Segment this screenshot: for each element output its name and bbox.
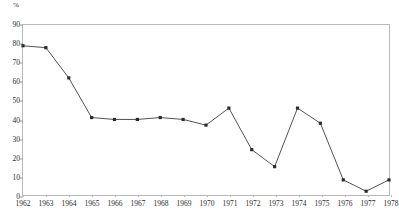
- x-axis-tick-mark: [253, 195, 254, 197]
- x-axis-tick-mark: [184, 195, 185, 197]
- y-axis-tick-label: 90: [13, 21, 21, 29]
- x-axis-tick-label: 1978: [384, 199, 399, 208]
- data-point-marker: [387, 178, 390, 181]
- x-axis-tick-label: 1966: [108, 199, 123, 208]
- y-axis-tick-label: 60: [13, 78, 21, 86]
- x-axis-tick-label: 1969: [177, 199, 192, 208]
- x-axis-tick-mark: [230, 195, 231, 197]
- y-axis-tick-label: 70: [13, 59, 21, 67]
- x-axis-tick-mark: [138, 195, 139, 197]
- data-point-marker: [250, 148, 253, 151]
- data-point-marker: [136, 118, 139, 121]
- y-axis-tick-label: 50: [13, 97, 21, 105]
- x-axis-tick-label: 1973: [269, 199, 284, 208]
- x-axis-tick-label: 1974: [292, 199, 307, 208]
- data-point-marker: [227, 107, 230, 110]
- x-axis-tick-mark: [23, 195, 24, 197]
- data-point-marker: [21, 44, 24, 47]
- data-point-marker: [365, 190, 368, 193]
- x-axis-tick-label: 1971: [223, 199, 238, 208]
- data-point-marker: [44, 46, 47, 49]
- series-line: [23, 46, 389, 191]
- x-axis-tick-mark: [391, 195, 392, 197]
- x-axis-tick-label: 1977: [361, 199, 376, 208]
- data-point-marker: [273, 165, 276, 168]
- data-point-marker: [319, 122, 322, 125]
- y-axis-tick-label: 80: [13, 40, 21, 48]
- x-axis-tick-mark: [368, 195, 369, 197]
- x-axis-tick-mark: [299, 195, 300, 197]
- x-axis-tick-mark: [115, 195, 116, 197]
- data-point-marker: [67, 76, 70, 79]
- data-point-marker: [90, 116, 93, 119]
- y-axis-unit-label: %: [13, 1, 19, 9]
- x-axis-tick-label: 1963: [39, 199, 54, 208]
- y-axis-tick-label: 30: [13, 136, 21, 144]
- x-axis-tick-mark: [345, 195, 346, 197]
- x-axis-tick-mark: [92, 195, 93, 197]
- x-axis-tick-label: 1967: [131, 199, 146, 208]
- x-axis-tick-label: 1964: [62, 199, 77, 208]
- y-axis-tick-label: 40: [13, 117, 21, 125]
- data-point-marker: [182, 118, 185, 121]
- plot-area: 0102030405060708090 19621963196419651966…: [22, 24, 390, 196]
- x-axis-tick-label: 1972: [246, 199, 261, 208]
- x-axis-tick-mark: [276, 195, 277, 197]
- data-point-marker: [342, 178, 345, 181]
- data-point-marker: [113, 118, 116, 121]
- x-axis-tick-mark: [207, 195, 208, 197]
- x-axis-tick-label: 1975: [315, 199, 330, 208]
- data-point-marker: [159, 116, 162, 119]
- x-axis-tick-label: 1968: [154, 199, 169, 208]
- x-axis-tick-label: 1965: [85, 199, 100, 208]
- y-axis-tick-label: 20: [13, 155, 21, 163]
- x-axis-tick-mark: [69, 195, 70, 197]
- x-axis-tick-label: 1976: [338, 199, 353, 208]
- data-series: [23, 25, 389, 195]
- data-point-marker: [204, 124, 207, 127]
- x-axis-tick-mark: [322, 195, 323, 197]
- x-axis-tick-mark: [46, 195, 47, 197]
- x-axis-tick-label: 1962: [16, 199, 31, 208]
- x-axis-tick-label: 1970: [200, 199, 215, 208]
- y-axis-tick-label: 10: [13, 174, 21, 182]
- x-axis-tick-mark: [161, 195, 162, 197]
- data-point-marker: [296, 107, 299, 110]
